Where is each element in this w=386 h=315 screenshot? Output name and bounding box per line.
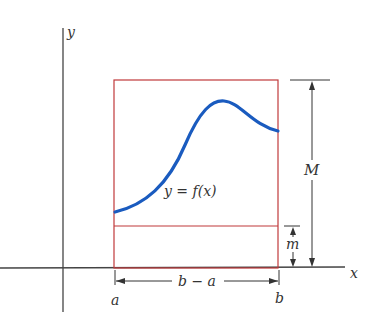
min-arrow-up-icon [290, 227, 296, 235]
width-label: b − a [178, 273, 216, 289]
width-arrow-right-icon [269, 278, 278, 284]
mean-value-integral-diagram: y x y = f(x) M m b − a a b [0, 0, 386, 315]
y-axis-label: y [66, 24, 76, 40]
b-label: b [275, 290, 284, 306]
min-arrow-down-icon [290, 259, 296, 267]
max-arrow-down-icon [309, 258, 315, 267]
x-axis-label: x [350, 265, 358, 281]
curve-label: y = f(x) [163, 183, 217, 199]
max-arrow-up-icon [309, 81, 315, 90]
min-label: m [286, 236, 299, 252]
max-label: M [303, 161, 320, 179]
max-rectangle [114, 80, 278, 268]
a-label: a [111, 292, 119, 308]
width-arrow-left-icon [116, 278, 125, 284]
